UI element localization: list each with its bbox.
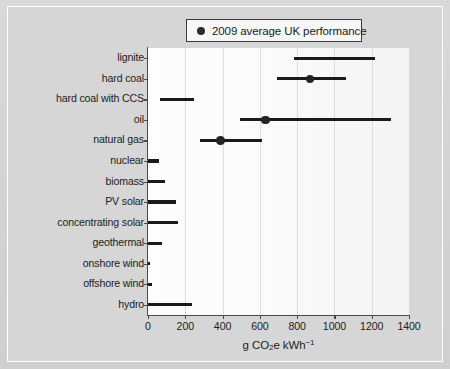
y-axis-label-onshore-wind: onshore wind: [8, 257, 144, 269]
y-axis-label-concentrating-solar: concentrating solar: [8, 216, 144, 228]
y-axis-label-lignite: lignite: [8, 51, 144, 63]
range-bar: [148, 283, 152, 286]
x-axis-label-800: 800: [288, 320, 305, 332]
average-marker: [216, 136, 225, 145]
range-bar: [148, 159, 159, 162]
x-axis-label-400: 400: [214, 320, 231, 332]
x-tick-200: [185, 315, 186, 319]
y-axis-label-oil: oil: [8, 113, 144, 125]
y-axis-label-biomass: biomass: [8, 175, 144, 187]
range-bar: [148, 221, 178, 224]
x-axis-label-1000: 1000: [323, 320, 346, 332]
plot-area: [148, 48, 409, 315]
legend-label: 2009 average UK performance: [212, 25, 367, 37]
gridline-1000: [334, 48, 335, 315]
range-bar: [200, 139, 262, 142]
gridline-200: [185, 48, 186, 315]
x-axis-label-0: 0: [145, 320, 151, 332]
x-axis-label-1400: 1400: [397, 320, 420, 332]
y-axis-label-offshore-wind: offshore wind: [8, 277, 144, 289]
range-bar: [148, 200, 176, 203]
x-axis-title-sup: −1: [305, 338, 314, 347]
x-tick-400: [223, 315, 224, 319]
filled-circle-icon: [197, 27, 205, 35]
gridline-600: [260, 48, 261, 315]
y-axis-label-PV-solar: PV solar: [8, 195, 144, 207]
x-tick-0: [148, 315, 149, 319]
x-tick-800: [297, 315, 298, 319]
gridline-1200: [372, 48, 373, 315]
x-axis-title-prefix: g CO: [243, 339, 269, 351]
y-axis-label-hard-coal: hard coal: [8, 72, 144, 84]
gridline-800: [297, 48, 298, 315]
x-axis-label-200: 200: [177, 320, 194, 332]
y-axis-label-hard-coal-with-CCS: hard coal with CCS: [8, 92, 144, 104]
y-axis-label-geothermal: geothermal: [8, 236, 144, 248]
gridline-400: [223, 48, 224, 315]
range-bar: [148, 242, 162, 245]
x-tick-1400: [409, 315, 410, 319]
x-tick-1000: [334, 315, 335, 319]
x-tick-600: [260, 315, 261, 319]
x-axis-label-600: 600: [251, 320, 268, 332]
x-tick-1200: [372, 315, 373, 319]
y-axis-line: [147, 47, 148, 316]
gridlines: [148, 48, 409, 315]
range-bar: [148, 180, 165, 183]
x-axis-label-1200: 1200: [360, 320, 383, 332]
chart-legend: 2009 average UK performance: [186, 19, 362, 42]
range-bar: [294, 57, 374, 60]
range-bar: [148, 303, 192, 306]
range-bar: [160, 98, 194, 101]
average-marker: [261, 116, 270, 125]
figure-container: 2009 average UK performance lignitehard …: [0, 0, 450, 369]
x-axis-title: g CO2e kWh−1: [148, 338, 409, 352]
y-axis-label-hydro: hydro: [8, 298, 144, 310]
y-axis-label-nuclear: nuclear: [8, 154, 144, 166]
x-axis-title-mid: e kWh: [273, 339, 305, 351]
y-axis-label-natural-gas: natural gas: [8, 133, 144, 145]
